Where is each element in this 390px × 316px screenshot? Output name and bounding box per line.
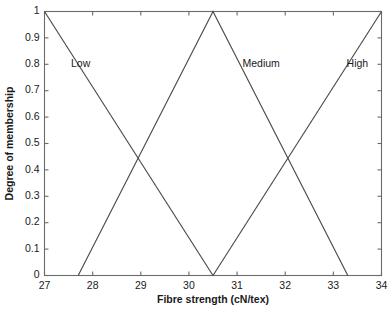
x-tick-label-27: 27	[39, 279, 51, 291]
membership-function-curves	[45, 12, 382, 276]
x-tick-label-33: 33	[328, 279, 340, 291]
y-tick-label-0.1: 0.1	[25, 242, 40, 254]
y-tick-label-0.8: 0.8	[25, 57, 40, 69]
x-tick-label-30: 30	[183, 279, 195, 291]
y-axis-title: Degree of membership	[3, 87, 15, 201]
x-axis-tick-labels: 2728293031323334	[39, 279, 388, 291]
mf-curve-low	[45, 12, 214, 276]
series-label-high: High	[347, 57, 369, 69]
mf-curve-medium	[78, 12, 348, 276]
series-label-medium: Medium	[242, 57, 280, 69]
y-tick-label-0: 0	[34, 268, 40, 280]
y-tick-label-1: 1	[34, 4, 40, 16]
y-tick-label-0.2: 0.2	[25, 215, 40, 227]
x-tick-label-28: 28	[87, 279, 99, 291]
y-axis-tick-labels: 00.10.20.30.40.50.60.70.80.91	[25, 4, 40, 280]
plot-box-border	[45, 12, 382, 276]
fuzzy-membership-chart-figure: 2728293031323334 00.10.20.30.40.50.60.70…	[0, 0, 390, 316]
axis-frame	[45, 12, 382, 276]
y-tick-label-0.7: 0.7	[25, 83, 40, 95]
series-label-low: Low	[71, 57, 91, 69]
y-tick-label-0.6: 0.6	[25, 110, 40, 122]
y-tick-label-0.3: 0.3	[25, 189, 40, 201]
x-tick-label-32: 32	[279, 279, 291, 291]
y-tick-label-0.5: 0.5	[25, 136, 40, 148]
y-axis-ticks	[45, 12, 382, 276]
x-tick-label-31: 31	[231, 279, 243, 291]
y-tick-label-0.4: 0.4	[25, 163, 40, 175]
mf-curve-high	[213, 12, 382, 276]
x-axis-title: Fibre strength (cN/tex)	[157, 293, 269, 305]
series-annotations: LowMediumHigh	[71, 57, 368, 69]
x-tick-label-29: 29	[135, 279, 147, 291]
x-axis-ticks	[45, 12, 382, 276]
x-tick-label-34: 34	[376, 279, 388, 291]
y-tick-label-0.9: 0.9	[25, 31, 40, 43]
chart-canvas: 2728293031323334 00.10.20.30.40.50.60.70…	[0, 0, 390, 316]
